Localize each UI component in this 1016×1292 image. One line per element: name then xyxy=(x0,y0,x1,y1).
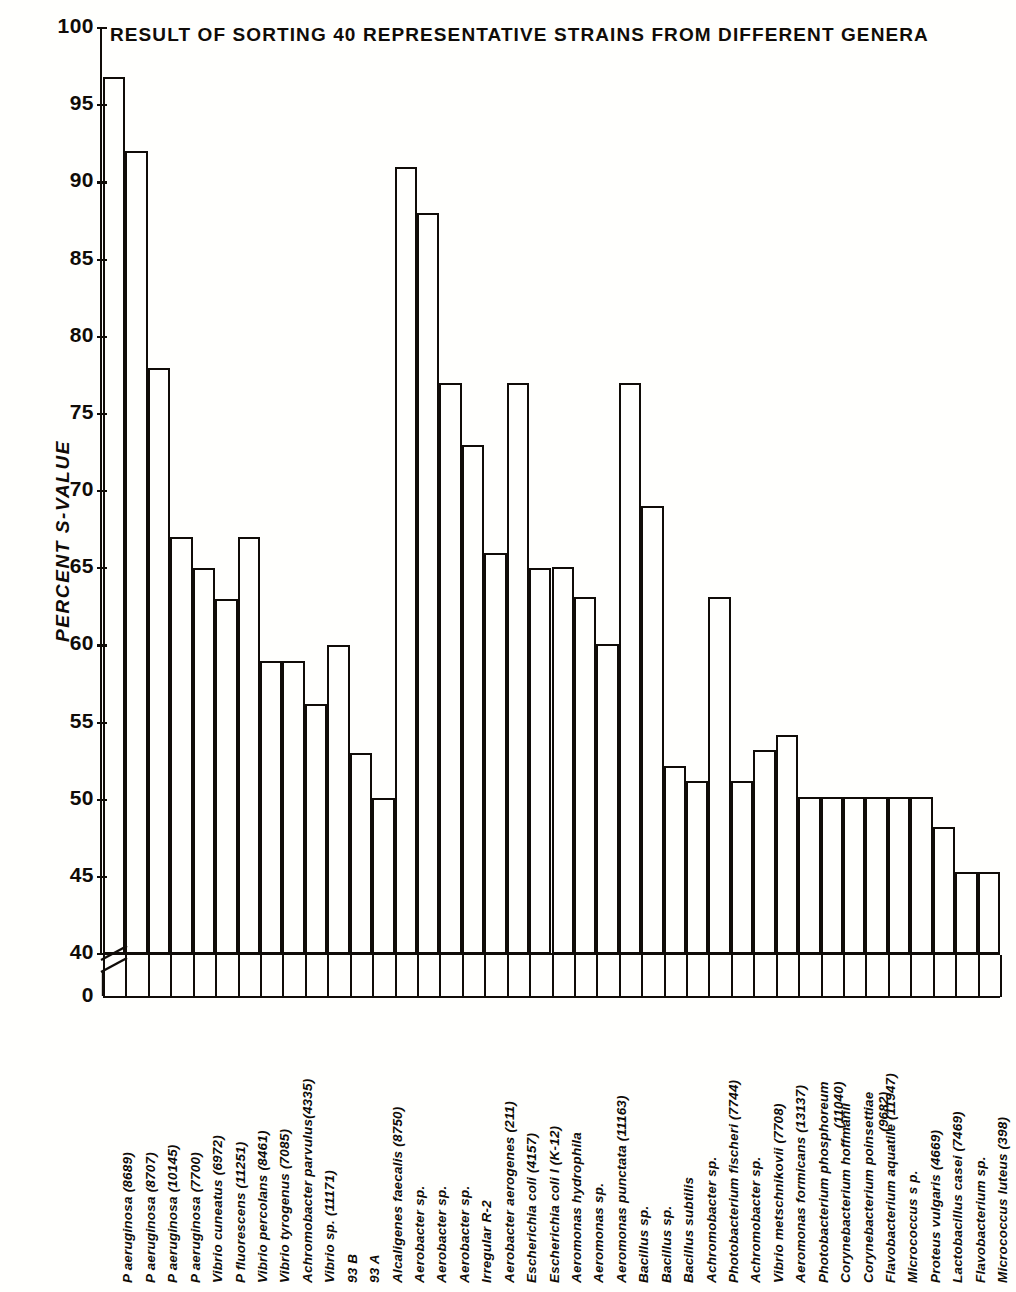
x-tick-label: Vibrio cuneatus (6972) xyxy=(210,1135,225,1283)
bar xyxy=(417,213,439,954)
bar xyxy=(731,781,753,954)
x-tick-stub xyxy=(933,955,935,997)
x-tick-label: Bacillus sp. xyxy=(659,1206,674,1283)
bar xyxy=(978,872,1000,954)
bar xyxy=(596,644,618,954)
x-tick-label: Aerobacter sp. xyxy=(412,1186,427,1283)
x-tick-label: 93 B xyxy=(345,1254,360,1283)
x-tick-stub xyxy=(641,955,643,997)
x-tick-label: Flavobacterium sp. xyxy=(973,1156,988,1283)
bar xyxy=(260,661,282,954)
bar xyxy=(574,597,596,954)
x-tick-label: Micrococcus luteus (398) xyxy=(995,1117,1010,1283)
x-tick-label: Aeromonas punctata (11163) xyxy=(614,1095,629,1283)
x-tick-stub xyxy=(753,955,755,997)
x-tick-label: Achromobacter parvulus(4335) xyxy=(300,1079,315,1283)
x-tick-stub xyxy=(125,955,127,997)
x-tick-stub xyxy=(843,955,845,997)
x-tick-label: Micrococcus s p. xyxy=(905,1170,920,1283)
bar xyxy=(798,797,820,954)
bar xyxy=(955,872,977,954)
y-tick-label: 50 xyxy=(0,786,94,810)
y-tick-label: 55 xyxy=(0,709,94,733)
bar xyxy=(910,797,932,954)
x-tick-label: Corynebacterium hoffmanii xyxy=(838,1103,853,1283)
x-tick-label: Vibrio tyrogenus (7085) xyxy=(277,1129,292,1283)
y-tick-label: 80 xyxy=(0,323,94,347)
x-tick-stub xyxy=(238,955,240,997)
x-tick-stub xyxy=(596,955,598,997)
bar xyxy=(238,537,260,954)
bar xyxy=(103,77,125,954)
y-tick-label: 90 xyxy=(0,168,94,192)
bar xyxy=(552,567,574,954)
bar xyxy=(125,151,147,954)
bar xyxy=(507,383,529,954)
x-tick-stub xyxy=(955,955,957,997)
x-tick-stub xyxy=(484,955,486,997)
x-tick-label: Bacillus subtilis xyxy=(681,1177,696,1283)
x-tick-label: P aeruginosa (8707) xyxy=(143,1152,158,1283)
x-tick-stub xyxy=(798,955,800,997)
bar xyxy=(664,766,686,954)
x-tick-stub xyxy=(552,955,554,997)
x-tick-label: Alcaligenes faecalis (8750) xyxy=(390,1107,405,1284)
bar xyxy=(193,568,215,954)
x-tick-label: Proteus vulgaris (4669) xyxy=(928,1130,943,1283)
x-tick-stub xyxy=(1000,955,1002,997)
x-tick-label: P fluorescens (11251) xyxy=(233,1141,248,1283)
x-tick-stub xyxy=(193,955,195,997)
x-tick-stub xyxy=(417,955,419,997)
bar xyxy=(888,797,910,954)
x-tick-stub xyxy=(708,955,710,997)
bar xyxy=(821,797,843,954)
x-tick-label: Escherichia coli (4157) xyxy=(524,1133,539,1283)
bar xyxy=(148,368,170,954)
x-tick-stub xyxy=(282,955,284,997)
x-tick-stub xyxy=(350,955,352,997)
bar xyxy=(215,599,237,954)
x-tick-stub xyxy=(260,955,262,997)
x-tick-label: Irregular R-2 xyxy=(479,1200,494,1283)
x-tick-label: Flavobacterium aquatile (11947) xyxy=(883,1073,898,1283)
x-tick-label: Photobacterium fischeri (7744) xyxy=(726,1080,741,1283)
bar xyxy=(350,753,372,954)
x-tick-label: Vibrio percolans (8461) xyxy=(255,1130,270,1283)
x-tick-stub xyxy=(148,955,150,997)
x-tick-stub xyxy=(664,955,666,997)
y-tick-label: 95 xyxy=(0,91,94,115)
y-tick-label: 65 xyxy=(0,554,94,578)
x-tick-label: Achromobacter sp. xyxy=(748,1157,763,1283)
x-tick-label: Aerobacter sp. xyxy=(434,1186,449,1283)
bar xyxy=(753,750,775,954)
x-tick-label: 93 A xyxy=(367,1254,382,1283)
bar xyxy=(305,704,327,954)
y-tick-label: 45 xyxy=(0,863,94,887)
bar xyxy=(462,445,484,954)
x-tick-stub xyxy=(170,955,172,997)
x-tick-stub xyxy=(327,955,329,997)
bar xyxy=(843,797,865,954)
x-tick-label: P aeruginosa (10145) xyxy=(165,1144,180,1283)
bar xyxy=(395,167,417,954)
bar xyxy=(439,383,461,954)
x-tick-label: Aerobacter sp. xyxy=(457,1186,472,1283)
bar xyxy=(708,597,730,954)
x-tick-stub xyxy=(619,955,621,997)
bar xyxy=(933,827,955,954)
bar xyxy=(686,781,708,954)
x-tick-stub xyxy=(574,955,576,997)
x-tick-stub xyxy=(731,955,733,997)
bar xyxy=(529,568,551,954)
y-tick-label: 75 xyxy=(0,400,94,424)
x-tick-label: Aeromonas sp. xyxy=(591,1183,606,1283)
bar xyxy=(372,798,394,954)
bar xyxy=(170,537,192,954)
chart-page: RESULT OF SORTING 40 REPRESENTATIVE STRA… xyxy=(0,0,1016,1292)
x-tick-stub xyxy=(865,955,867,997)
x-tick-stub xyxy=(395,955,397,997)
x-tick-label: Achromobacter sp. xyxy=(704,1157,719,1283)
x-tick-stub xyxy=(103,955,105,997)
x-tick-stub xyxy=(439,955,441,997)
x-tick-stub xyxy=(910,955,912,997)
